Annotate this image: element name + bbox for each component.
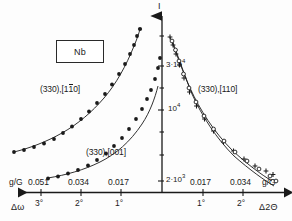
x-tick-right-0017: 0.017 [190, 178, 211, 187]
x-tick-right-2deg: 2° [237, 199, 245, 208]
series-330-110-open [170, 39, 278, 186]
curve-label-330-001: (330),[001] [86, 148, 126, 157]
x-tick-right-0034: 0.034 [230, 178, 251, 187]
curve-label-suffix: 0] [73, 84, 80, 94]
data-points [168, 35, 276, 177]
x-unit-label-left: g/G [9, 178, 23, 187]
series-330-001 [46, 56, 162, 180]
x-tick-left-3deg: 3° [35, 199, 43, 208]
x-tick-left-2deg: 2° [75, 199, 83, 208]
y-tick-label-3e4: 3·104 [166, 61, 185, 69]
x-tick-left-0034: 0.034 [68, 178, 89, 187]
x-tick-right-1deg: 1° [197, 199, 205, 208]
curve-label-330-110: (330),[110] [198, 85, 237, 94]
y-tick-exp: 4 [177, 102, 180, 108]
y-tick-base: 10 [168, 104, 177, 113]
x-unit-label-right: g/G [262, 178, 276, 187]
y-tick-base: 2·10 [166, 175, 182, 184]
x-tick-left-0017: 0.017 [108, 178, 129, 187]
y-tick-label-2e3: 2·103 [166, 176, 185, 184]
y-tick-exp: 4 [182, 58, 185, 64]
data-points [46, 56, 162, 180]
x-tick-left-0051: 0.051 [28, 178, 49, 187]
sample-label-text: Nb [74, 47, 86, 57]
y-tick-base: 3·10 [166, 60, 182, 69]
curve-label-330-1bar10: (330),[110] [40, 85, 80, 94]
plot-canvas [0, 0, 292, 221]
data-points [170, 39, 278, 183]
x-axis-name-left: Δω [11, 203, 25, 212]
curve-label-overbar-digit: 1 [69, 85, 74, 94]
sample-label-box: Nb [56, 40, 104, 63]
series-330-110-cross [168, 35, 276, 181]
diffraction-figure: I Nb 3·104 104 2·103 (330),[110] (330),[… [0, 0, 292, 221]
y-tick-label-1e4: 104 [168, 105, 180, 113]
y-tick-exp: 3 [182, 173, 185, 179]
intensity-axis-label: I [158, 2, 161, 11]
x-tick-left-1deg: 1° [115, 199, 123, 208]
curve-label-prefix: (330),[1 [40, 84, 69, 94]
x-axis-name-right: Δ2Θ [259, 203, 278, 212]
